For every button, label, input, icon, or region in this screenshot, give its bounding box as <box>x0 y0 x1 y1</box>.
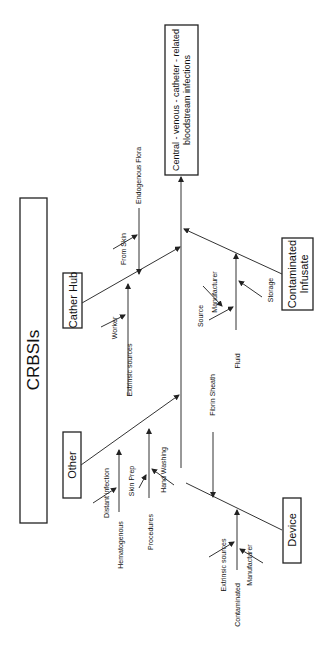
cause-fibrin-sheath: Fibrin Sheath <box>209 374 216 416</box>
category-device: Device Fibrin Sheath Contaminated Extrin… <box>186 374 301 627</box>
other-label: Other <box>66 451 78 479</box>
title-box: CRBSIs <box>20 198 47 523</box>
effect-box: Central - venous - catheter - related bl… <box>165 25 198 175</box>
cause-contaminated: Contaminated <box>234 583 241 627</box>
cause-storage: Storage <box>267 278 275 303</box>
cause-hand-washing: Hand Washing <box>160 447 168 493</box>
cause-extrinsic-sources-hub: Extrinsic sources <box>126 343 133 396</box>
fishbone-diagram: CRBSIs Central - venous - catheter - rel… <box>0 0 322 669</box>
category-contaminated-infusate: Contaminated Infusate Fluid Source Manuf… <box>184 229 313 369</box>
infusate-label-line2: Infusate <box>298 254 310 293</box>
infusate-label-line1: Contaminated <box>286 240 298 309</box>
cause-distant-infection: Distant infection <box>103 468 110 518</box>
category-cather-hub: Cather Hub Endogenous Flora From Skin Ex… <box>63 147 180 397</box>
cause-endogenous-flora: Endogenous Flora <box>135 147 143 204</box>
cause-skin-prep: Skin Prep <box>128 466 136 496</box>
cause-manufacturer-device: Manufacturer <box>246 544 253 586</box>
cause-worker: Worker <box>111 316 118 339</box>
cather-hub-label: Cather Hub <box>67 272 79 328</box>
cause-extrinsic-sources-device: Extrinsic sources <box>220 538 227 591</box>
device-label: Device <box>286 513 298 547</box>
effect-label-line2: bloodstream infections <box>182 54 192 145</box>
cause-from-skin: From Skin <box>120 233 127 265</box>
diagram-title: CRBSIs <box>24 330 43 390</box>
cause-procedures: Procedures <box>147 514 154 550</box>
cause-manufacturer-infusate: Manufacturer <box>211 271 218 313</box>
cause-fluid: Fluid <box>234 353 241 368</box>
cause-source: Source <box>197 305 204 327</box>
cause-hematogenous: Hematogenous <box>117 521 125 569</box>
category-other: Other Hematogenous Distant infection Pro… <box>63 395 179 569</box>
effect-label-line1: Central - venous - catheter - related <box>171 29 181 171</box>
